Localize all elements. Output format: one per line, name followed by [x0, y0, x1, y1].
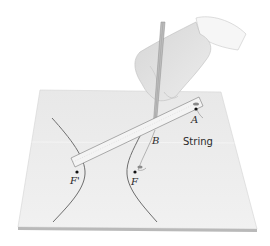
point-a-dot	[194, 107, 197, 110]
hand	[135, 17, 246, 101]
illustration	[0, 0, 270, 246]
label-point-b: B	[152, 136, 159, 146]
focus-f-prime-dot	[75, 170, 78, 173]
focus-f-dot	[133, 170, 136, 173]
label-string: String	[183, 137, 213, 147]
label-focus-f: F	[131, 177, 138, 187]
label-point-a: A	[191, 115, 198, 125]
paper-sheet	[18, 90, 257, 232]
hyperbola-drawing-figure: A B String F' F	[0, 0, 270, 246]
label-focus-f-prime: F'	[70, 176, 80, 186]
